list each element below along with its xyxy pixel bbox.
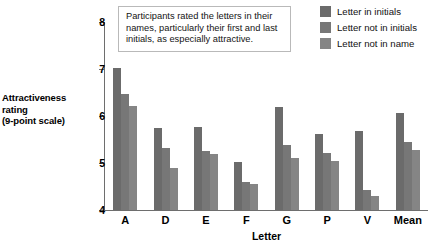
bar: [154, 128, 162, 210]
bar: [129, 106, 137, 210]
bar: [250, 184, 258, 210]
y-axis-title-line-3: (9-point scale): [2, 115, 88, 127]
y-axis-tick-label: 8: [82, 17, 105, 27]
legend-item: Letter in initials: [320, 4, 434, 19]
y-axis-title-line-2: rating: [2, 104, 88, 116]
x-axis-tick-label: P: [304, 213, 350, 227]
annotation-callout: Participants rated the letters in their …: [118, 6, 291, 52]
bar: [113, 68, 121, 210]
y-axis-tick-label: 5: [82, 158, 105, 168]
y-axis-tick-label: 7: [82, 64, 105, 74]
bar: [371, 196, 379, 210]
bar: [210, 154, 218, 210]
x-axis-title: Letter: [105, 230, 428, 242]
bar: [162, 148, 170, 211]
legend-item: Letter not in name: [320, 36, 434, 51]
x-axis-tick-label: D: [143, 213, 189, 227]
legend-swatch-icon: [320, 6, 331, 17]
bar: [121, 94, 129, 210]
legend-item-label: Letter not in name: [337, 36, 414, 51]
legend-item-label: Letter in initials: [337, 4, 401, 19]
legend-item: Letter not in initials: [320, 20, 434, 35]
legend-item-label: Letter not in initials: [337, 20, 417, 35]
y-axis-tick-label-text: 5: [91, 158, 105, 168]
bar: [396, 113, 404, 210]
y-axis-tick-label-text: 7: [91, 64, 105, 74]
bar: [291, 158, 299, 210]
y-axis-tick-label-text: 8: [91, 17, 105, 27]
bar: [275, 107, 283, 210]
bar: [323, 153, 331, 210]
bar: [194, 127, 202, 210]
bar: [355, 131, 363, 210]
y-axis-tick-label-text: 6: [91, 111, 105, 121]
legend-swatch-icon: [320, 38, 331, 49]
y-axis-tick-label: 6: [82, 111, 105, 121]
legend-swatch-icon: [320, 22, 331, 33]
y-axis-title-line-1: Attractiveness: [2, 92, 88, 104]
bar: [283, 145, 291, 210]
x-axis-tick-label: V: [344, 213, 390, 227]
bar: [202, 151, 210, 210]
bar: [412, 150, 420, 210]
bar: [331, 161, 339, 210]
bar: [363, 190, 371, 210]
x-axis-tick-label: A: [102, 213, 148, 227]
bar: [234, 162, 242, 210]
bar: [170, 168, 178, 210]
y-axis-title: Attractiveness rating (9-point scale): [2, 92, 88, 127]
x-axis-tick-labels: ADEFGPVMean: [105, 213, 428, 229]
x-axis-line: [104, 210, 428, 211]
chart-legend: Letter in initialsLetter not in initials…: [320, 4, 434, 52]
x-axis-tick-label: E: [183, 213, 229, 227]
bar: [404, 142, 412, 210]
x-axis-tick-label: F: [223, 213, 269, 227]
bar-chart-figure: Attractiveness rating (9-point scale) 45…: [0, 0, 434, 246]
x-axis-tick-label: Mean: [385, 213, 431, 227]
bar: [315, 134, 323, 210]
x-axis-tick-label: G: [264, 213, 310, 227]
bar: [242, 182, 250, 210]
